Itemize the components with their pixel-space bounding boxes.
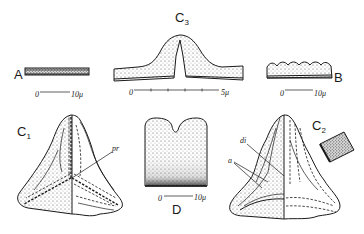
panel-c2-label: C2 <box>312 118 326 135</box>
panel-a-label: A <box>14 67 23 82</box>
panel-c2-stippled-half <box>230 115 284 219</box>
panel-c3-scale-zero: 0 <box>129 88 133 97</box>
panel-a-scale-zero: 0 <box>35 90 39 99</box>
panel-c3-label: C3 <box>175 10 189 27</box>
panel-c3-scale-bar: 0 5μ <box>129 88 229 97</box>
panel-c1-pointer-pr <box>72 152 112 178</box>
panel-a-scale-bar: 0 10μ <box>35 90 83 99</box>
panel-b-scale-bar: 0 10μ <box>280 89 326 98</box>
panel-c2: C2 di a <box>228 115 354 219</box>
panel-a-scale-end: 10μ <box>71 90 83 99</box>
panel-d-scale-end: 10μ <box>194 193 206 202</box>
panel-c3: C3 0 5μ <box>114 10 243 97</box>
panel-c2-annotation-a: a <box>228 156 232 165</box>
panel-b-scale-end: 10μ <box>314 89 326 98</box>
panel-c3-scale-end: 5μ <box>221 88 229 97</box>
figure-canvas: A 0 10μ C3 0 5μ B <box>0 0 364 234</box>
panel-b: B 0 10μ <box>267 62 343 98</box>
panel-c1-annotation-pr: pr <box>111 144 120 153</box>
panel-c2-square-plate <box>320 132 354 162</box>
panel-a: A 0 10μ <box>14 67 89 99</box>
panel-c3-section <box>114 35 243 81</box>
panel-d-label: D <box>172 202 181 217</box>
panel-c1-label: C1 <box>17 124 31 141</box>
panel-c2-annotation-di: di <box>240 136 246 145</box>
panel-c1: C1 pr <box>17 115 122 216</box>
panel-b-scale-zero: 0 <box>280 89 284 98</box>
panel-b-label: B <box>334 70 343 85</box>
panel-d: 0 10μ D <box>145 118 207 217</box>
panel-d-scale-bar: 0 10μ <box>158 193 206 203</box>
panel-d-scale-zero: 0 <box>158 194 162 203</box>
